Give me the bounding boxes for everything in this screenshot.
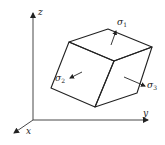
sigma1-label: σ1 bbox=[117, 18, 127, 28]
z-axis-label: z bbox=[38, 8, 43, 17]
sigma3-index: 3 bbox=[153, 84, 157, 91]
sigma2-index: 2 bbox=[61, 77, 65, 84]
x-axis-label: x bbox=[26, 127, 31, 136]
stress-element-diagram bbox=[0, 0, 165, 145]
sigma1-arrow bbox=[111, 31, 116, 45]
sigma3-label: σ3 bbox=[147, 81, 157, 91]
sigma1-index: 1 bbox=[123, 21, 127, 28]
stress-cube bbox=[51, 29, 152, 107]
sigma2-label: σ2 bbox=[55, 74, 65, 84]
sigma2-arrow bbox=[70, 72, 82, 78]
y-axis-label: y bbox=[143, 109, 148, 118]
cube-top-face bbox=[69, 29, 152, 61]
